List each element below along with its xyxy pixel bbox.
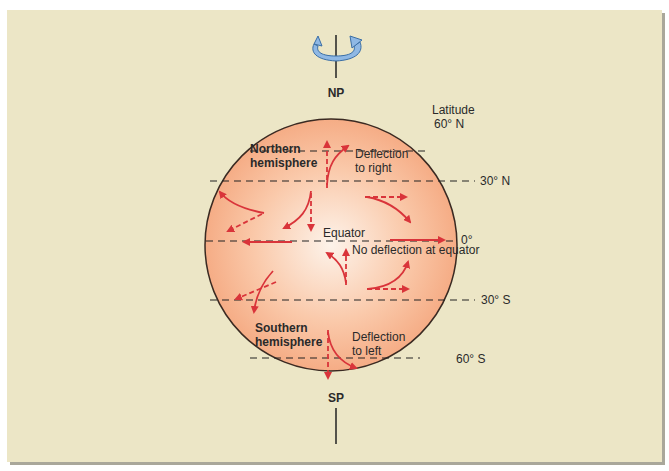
northern-hemisphere-line1: Northern	[250, 142, 301, 156]
south-pole-label: SP	[328, 391, 344, 405]
latitude-30s: 30° S	[481, 293, 510, 307]
latitude-header: Latitude	[432, 103, 475, 117]
north-pole-label: NP	[328, 86, 345, 100]
deflection-left-line1: Deflection	[352, 330, 405, 344]
latitude-60n: 60° N	[434, 117, 464, 131]
northern-hemisphere-line2: hemisphere	[250, 156, 318, 170]
southern-hemisphere-line1: Southern	[255, 321, 308, 335]
deflection-left-line2: to left	[352, 344, 382, 358]
coriolis-diagram: NP SP Latitude 60° N 30° N 0° 30° S 60° …	[0, 0, 669, 471]
latitude-30n: 30° N	[480, 174, 510, 188]
rotation-arrow-icon	[313, 36, 362, 61]
deflection-right-line1: Deflection	[355, 147, 408, 161]
southern-hemisphere-line2: hemisphere	[255, 335, 323, 349]
latitude-60s: 60° S	[456, 352, 485, 366]
equator-label: Equator	[323, 226, 365, 240]
no-deflection-label: No deflection at equator	[352, 243, 479, 257]
deflection-right-line2: to right	[355, 161, 392, 175]
